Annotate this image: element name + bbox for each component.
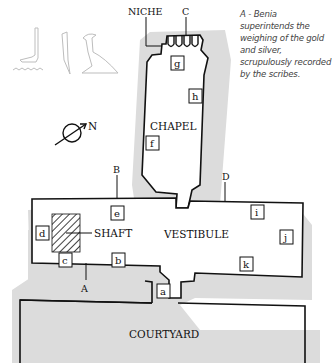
foot-glyph <box>20 28 38 62</box>
chapel-label: CHAPEL <box>150 120 197 132</box>
svg-text:k: k <box>243 259 250 270</box>
svg-text:c: c <box>62 255 68 266</box>
svg-text:h: h <box>192 91 199 102</box>
svg-text:i: i <box>255 207 258 218</box>
vulture-glyph <box>82 34 118 73</box>
svg-text:j: j <box>283 232 287 243</box>
reed-leaf-glyph <box>62 32 70 74</box>
svg-text:g: g <box>174 58 181 69</box>
marker-d: D <box>222 171 230 182</box>
marker-b: B <box>113 164 120 175</box>
svg-text:a: a <box>160 286 166 297</box>
svg-text:e: e <box>114 208 120 219</box>
hieroglyph-group <box>13 28 118 74</box>
niche-label: NICHE <box>128 6 163 17</box>
marker-a: A <box>80 283 88 294</box>
shaft-label: SHAFT <box>94 227 132 239</box>
marker-c: C <box>182 6 189 17</box>
svg-text:d: d <box>39 228 46 239</box>
svg-text:b: b <box>115 255 121 266</box>
water-ripple-glyph <box>13 68 43 70</box>
north-arrow-icon <box>55 124 86 145</box>
vestibule-label: VESTIBULE <box>163 228 229 240</box>
compass-n-label: N <box>88 120 97 132</box>
courtyard-label: COURTYARD <box>129 328 199 340</box>
tomb-plan: NICHE C B D A CHAPEL VESTIBULE COURTYARD… <box>0 0 332 363</box>
